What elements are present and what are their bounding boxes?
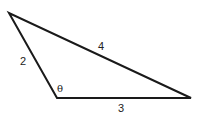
side-label-bottom: 3 (118, 102, 124, 114)
side-label-left: 2 (20, 55, 26, 67)
triangle-diagram: 2 4 3 θ (0, 0, 200, 118)
angle-label-theta: θ (57, 83, 63, 94)
triangle (9, 13, 191, 98)
side-label-top: 4 (98, 40, 104, 52)
